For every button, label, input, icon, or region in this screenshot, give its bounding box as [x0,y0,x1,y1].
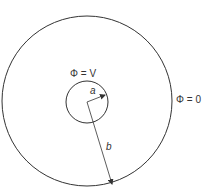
outer-potential-label: Φ = 0 [176,94,201,105]
outer-circle [2,16,172,186]
radius-b-label: b [106,141,112,152]
inner-potential-label: Φ = V [70,68,96,79]
diagram-svg: Φ = V Φ = 0 a b [0,0,211,191]
radius-a-label: a [90,85,96,96]
radius-a-arrow [87,95,105,102]
concentric-spheres-diagram: Φ = V Φ = 0 a b [0,0,211,191]
